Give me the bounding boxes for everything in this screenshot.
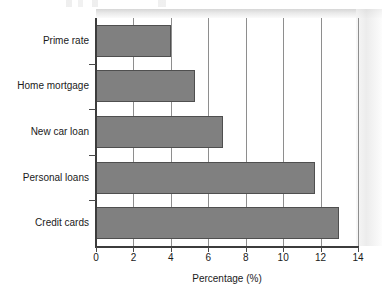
x-tick-label: 10 [278, 253, 289, 263]
bar [96, 116, 223, 148]
bar-chart-figure: Prime rateHome mortgageNew car loanPerso… [0, 0, 389, 301]
bar [96, 207, 339, 239]
scan-artifact-right-edge [356, 9, 382, 246]
x-tick-label: 4 [168, 253, 174, 263]
y-tick-mark [89, 109, 96, 110]
plot-area [96, 18, 358, 246]
x-tick-label: 6 [206, 253, 212, 263]
bar [96, 25, 171, 57]
y-axis-category-labels: Prime rateHome mortgageNew car loanPerso… [0, 18, 89, 246]
x-tick-label: 12 [315, 253, 326, 263]
x-axis-line [95, 246, 359, 248]
x-tick-label: 0 [93, 253, 99, 263]
x-tick-label: 8 [243, 253, 249, 263]
y-axis-label: New car loan [31, 127, 89, 137]
y-axis-label: Prime rate [43, 36, 89, 46]
y-tick-mark [89, 64, 96, 65]
y-axis-label: Personal loans [23, 173, 89, 183]
bar [96, 70, 195, 102]
y-axis-label: Credit cards [35, 218, 89, 228]
y-tick-mark [89, 200, 96, 201]
x-tick-label: 2 [131, 253, 137, 263]
y-tick-mark [89, 155, 96, 156]
bar [96, 162, 315, 194]
gridline-14 [358, 18, 359, 246]
y-axis-label: Home mortgage [17, 81, 89, 91]
x-axis-title: Percentage (%) [96, 274, 358, 284]
y-axis-line [95, 18, 97, 247]
x-tick-label: 14 [352, 253, 363, 263]
scan-artifact-band [96, 9, 382, 18]
scan-artifact-top-text [62, 0, 212, 7]
